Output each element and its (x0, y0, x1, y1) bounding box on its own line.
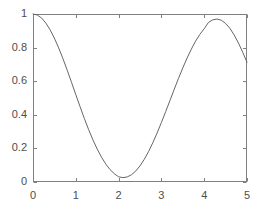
y-tick-label: 0 (0, 176, 27, 187)
x-tick-label: 4 (184, 190, 224, 201)
figure-container: 012345 00.20.40.60.81 (0, 0, 259, 210)
plot-canvas (0, 0, 259, 210)
y-tick-label: 0.2 (0, 142, 27, 153)
x-tick-label: 2 (99, 190, 139, 201)
x-tick-label: 5 (227, 190, 259, 201)
x-tick-label: 3 (141, 190, 181, 201)
x-tick-label: 1 (56, 190, 96, 201)
data-series-line (33, 14, 247, 178)
x-axis-tick-marks (34, 15, 248, 182)
y-axis-tick-marks (34, 15, 247, 183)
y-tick-label: 1 (0, 8, 27, 19)
y-tick-label: 0.4 (0, 109, 27, 120)
y-tick-label: 0.8 (0, 42, 27, 53)
x-tick-label: 0 (13, 190, 53, 201)
y-tick-label: 0.6 (0, 75, 27, 86)
axes-frame (34, 15, 247, 182)
